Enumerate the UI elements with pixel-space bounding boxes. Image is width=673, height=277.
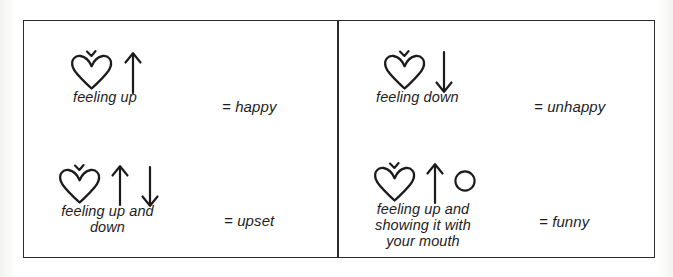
heart-with-caret-icon [379, 42, 431, 92]
figure-frame: feeling up = happy [23, 20, 655, 258]
equals-sign: = [222, 98, 231, 115]
entry-funny: feeling up and showing it with your mout… [339, 140, 654, 259]
up-arrow-icon [109, 163, 131, 207]
entry-unhappy: feeling down = unhappy [339, 21, 654, 140]
figure-page: feeling up = happy [0, 0, 673, 277]
entry-upset: feeling up and down = upset [24, 140, 337, 259]
caption-funny: feeling up and showing it with your mout… [375, 201, 471, 250]
caption-upset: feeling up and down [61, 203, 154, 235]
equals-sign: = [539, 213, 548, 230]
glyph-group-happy: feeling up [66, 42, 144, 105]
entry-happy: feeling up = happy [24, 21, 337, 140]
equals-sign: = [224, 212, 233, 229]
circle-mouth-icon [453, 169, 477, 193]
meaning-happy: happy [235, 98, 276, 115]
up-arrow-icon [122, 50, 144, 94]
gloss-happy: = happy [222, 98, 277, 115]
up-arrow-icon [424, 161, 446, 205]
glyph-group-upset: feeling up and down [54, 156, 161, 235]
caption-happy: feeling up [73, 89, 137, 105]
gloss-unhappy: = unhappy [534, 98, 605, 115]
equals-sign: = [534, 98, 543, 115]
gloss-funny: = funny [539, 213, 589, 230]
glyph-group-unhappy: feeling down [376, 42, 459, 105]
meaning-unhappy: unhappy [547, 98, 605, 115]
meaning-upset: upset [237, 212, 274, 229]
gloss-upset: = upset [224, 212, 274, 229]
heart-with-caret-icon [66, 42, 118, 92]
meaning-funny: funny [552, 213, 589, 230]
glyph-group-funny: feeling up and showing it with your mout… [369, 154, 477, 250]
heart-with-caret-icon [54, 156, 106, 206]
heart-with-caret-icon [369, 154, 421, 204]
caption-unhappy: feeling down [376, 89, 459, 105]
